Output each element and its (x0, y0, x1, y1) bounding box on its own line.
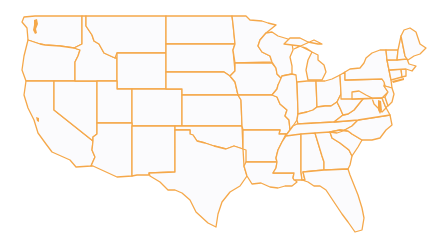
state-sd[interactable]: South Dakota (166, 44, 235, 76)
us-state-map: WashingtonOregonCaliforniaNevadaIdahoMon… (0, 0, 448, 246)
state-wy[interactable]: Wyoming (117, 53, 166, 89)
state-az[interactable]: Arizona (91, 123, 132, 177)
state-ct[interactable]: Connecticut (389, 69, 402, 80)
state-co[interactable]: Colorado (132, 89, 182, 126)
state-ia[interactable]: Iowa (230, 63, 282, 95)
state-vt[interactable]: Vermont (386, 50, 398, 60)
state-nm[interactable]: New Mexico (132, 126, 175, 176)
state-fl[interactable]: Florida (302, 169, 364, 232)
state-nd[interactable]: North Dakota (166, 16, 235, 44)
state-ks[interactable]: Kansas (182, 95, 242, 126)
state-ri[interactable]: Rhode Island (401, 69, 406, 77)
states-layer: WashingtonOregonCaliforniaNevadaIdahoMon… (22, 16, 426, 232)
state-ma[interactable]: Massachusetts (387, 59, 416, 71)
state-me[interactable]: Maine (401, 28, 426, 60)
